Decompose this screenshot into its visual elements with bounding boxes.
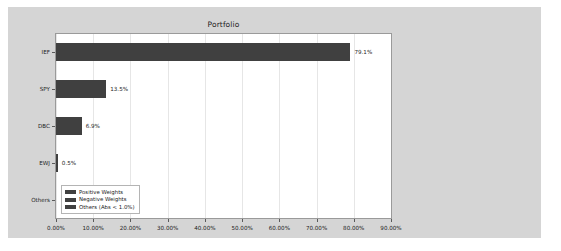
legend-label-0: Positive Weights <box>79 189 123 196</box>
legend-rows: Positive WeightsNegative WeightsOthers (… <box>65 189 135 211</box>
plot-inner: 79.1%13.5%6.9%0.5% Positive WeightsNegat… <box>56 34 391 218</box>
legend-item: Positive Weights <box>65 189 135 196</box>
bar-value-label-dbc: 6.9% <box>86 123 100 129</box>
bar-value-label-ewj: 0.5% <box>62 160 76 166</box>
x-tick-label-2000: 20.00% <box>120 225 141 231</box>
y-tick-mark <box>52 163 55 164</box>
y-tick-label-others: Others <box>31 197 50 203</box>
legend-swatch-0 <box>65 190 76 194</box>
x-tick-mark <box>279 219 280 222</box>
x-tick-label-4000: 40.00% <box>194 225 215 231</box>
legend-label-1: Negative Weights <box>79 196 127 203</box>
y-axis-ticks: IEFSPYDBCEWJOthers <box>8 7 55 221</box>
y-tick-label-spy: SPY <box>40 86 50 92</box>
bar-row: 13.5% <box>56 80 391 98</box>
x-tick-label-7000: 70.00% <box>306 225 327 231</box>
bar-value-label-ief: 79.1% <box>354 49 372 55</box>
bar-dbc <box>56 117 82 135</box>
x-tick-mark <box>93 219 94 222</box>
x-tick-mark <box>168 219 169 222</box>
x-tick-label-5000: 50.00% <box>231 225 252 231</box>
legend-label-2: Others (Abs < 1.0%) <box>79 204 135 211</box>
x-tick-mark <box>56 219 57 222</box>
y-tick-mark <box>52 126 55 127</box>
x-tick-mark <box>130 219 131 222</box>
y-tick-mark <box>52 89 55 90</box>
legend-item: Others (Abs < 1.0%) <box>65 204 135 211</box>
chart-legend: Positive WeightsNegative WeightsOthers (… <box>61 185 140 214</box>
y-tick-mark <box>52 200 55 201</box>
x-tick-mark <box>391 219 392 222</box>
legend-item: Negative Weights <box>65 196 135 203</box>
bar-ewj <box>56 154 58 172</box>
y-tick-label-ewj: EWJ <box>39 160 50 166</box>
legend-swatch-2 <box>65 205 76 209</box>
x-tick-label-3000: 30.00% <box>157 225 178 231</box>
chart-title: Portfolio <box>55 20 392 29</box>
x-tick-label-000: 0.00% <box>47 225 65 231</box>
y-tick-label-ief: IEF <box>42 49 50 55</box>
bar-row: 0.5% <box>56 154 391 172</box>
plot-area: 79.1%13.5%6.9%0.5% Positive WeightsNegat… <box>55 33 392 219</box>
legend-swatch-1 <box>65 198 76 202</box>
x-tick-mark <box>205 219 206 222</box>
bar-row: 79.1% <box>56 43 391 61</box>
bar-spy <box>56 80 106 98</box>
figure-panel: Portfolio 79.1%13.5%6.9%0.5% Positive We… <box>8 7 541 238</box>
x-tick-mark <box>317 219 318 222</box>
x-tick-label-1000: 10.00% <box>83 225 104 231</box>
x-tick-label-8000: 80.00% <box>343 225 364 231</box>
x-tick-mark <box>242 219 243 222</box>
x-axis-ticks: 0.00%10.00%20.00%30.00%40.00%50.00%60.00… <box>55 219 392 243</box>
x-tick-label-6000: 60.00% <box>269 225 290 231</box>
x-tick-label-9000: 90.00% <box>380 225 401 231</box>
bar-value-label-spy: 13.5% <box>110 86 128 92</box>
x-tick-mark <box>354 219 355 222</box>
bar-row: 6.9% <box>56 117 391 135</box>
y-tick-label-dbc: DBC <box>38 123 50 129</box>
y-tick-mark <box>52 52 55 53</box>
bar-ief <box>56 43 350 61</box>
chart-screenshot: Portfolio 79.1%13.5%6.9%0.5% Positive We… <box>0 0 561 251</box>
